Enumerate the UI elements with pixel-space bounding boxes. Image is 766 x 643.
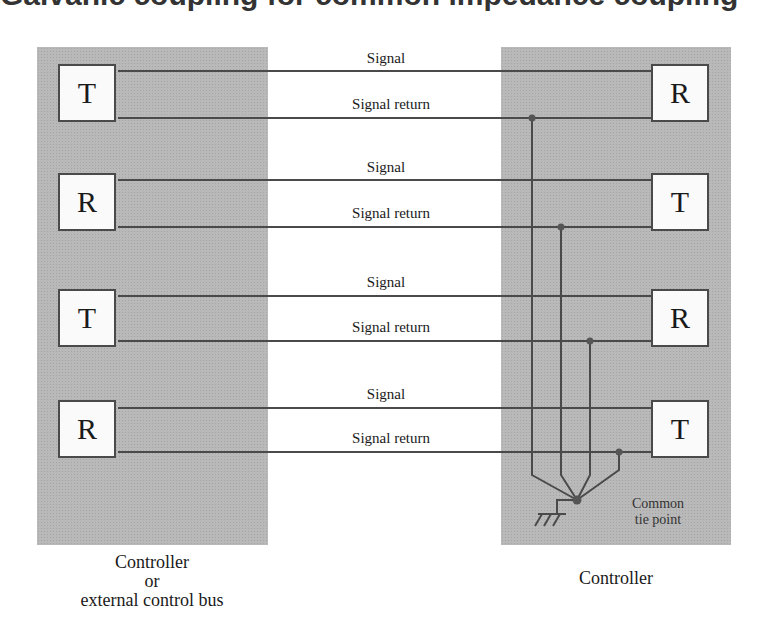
junction-dot: [529, 115, 536, 122]
common-tie-point-label: Common tie point: [618, 496, 698, 528]
right-panel-caption: Controller: [579, 569, 653, 588]
junction-dot: [558, 224, 565, 231]
right-box-4: T: [651, 400, 709, 458]
junction-dot: [616, 449, 623, 456]
return-drop-1: [532, 118, 577, 500]
right-box-2: T: [651, 173, 709, 231]
signal-label-4: Signal: [367, 386, 405, 403]
signal-return-label-3: Signal return: [352, 319, 430, 336]
return-drop-3: [577, 341, 590, 500]
common-tie-point-dot: [573, 496, 582, 505]
right-box-1: R: [651, 64, 709, 122]
return-drop-4: [577, 452, 619, 500]
right-box-3: R: [651, 289, 709, 347]
signal-return-label-2: Signal return: [352, 205, 430, 222]
signal-label-2: Signal: [367, 159, 405, 176]
left-panel-caption: Controller or external control bus: [81, 553, 224, 610]
left-box-2: R: [58, 173, 116, 231]
signal-return-label-1: Signal return: [352, 96, 430, 113]
signal-return-label-4: Signal return: [352, 430, 430, 447]
left-box-1: T: [58, 64, 116, 122]
left-box-3: T: [58, 289, 116, 347]
signal-label-3: Signal: [367, 274, 405, 291]
left-box-4: R: [58, 400, 116, 458]
junction-dot: [587, 338, 594, 345]
signal-label-1: Signal: [367, 50, 405, 67]
return-drop-2: [561, 227, 577, 500]
